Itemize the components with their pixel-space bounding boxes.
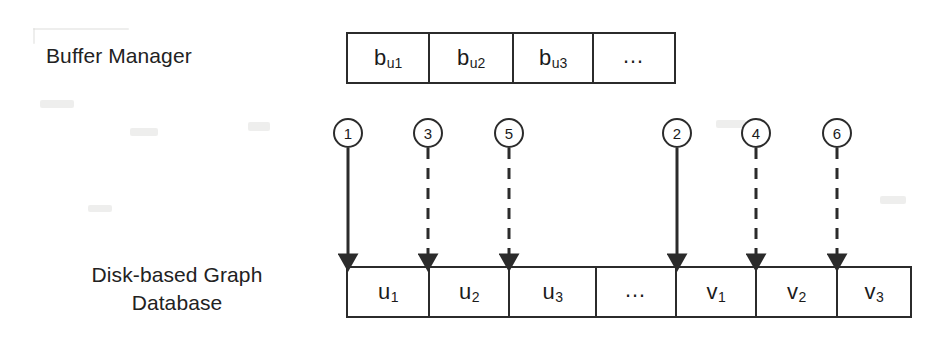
buffer-manager-cells: bu1bu2bu3… [346, 32, 676, 84]
step-circle-5: 5 [494, 118, 524, 148]
disk-cell-5: v1 [677, 268, 757, 316]
buffer-cell-3-base: b [539, 45, 551, 71]
disk-cell-6-subscript: 2 [799, 289, 807, 305]
scan-artifact [88, 205, 112, 212]
disk-cell-3-subscript: 3 [555, 289, 563, 305]
buffer-cell-2-subscript: u2 [470, 55, 486, 71]
disk-cell-5-base: v [707, 279, 718, 305]
scan-artifact [880, 196, 906, 204]
disk-database-label: Disk-based Graph Database [22, 261, 332, 317]
step-circle-2: 2 [662, 118, 692, 148]
disk-cell-4: … [597, 268, 677, 316]
disk-cell-2-base: u [459, 279, 471, 305]
disk-cell-7: v3 [838, 268, 910, 316]
buffer-cell-1: bu1 [348, 34, 430, 82]
disk-cell-2: u2 [430, 268, 510, 316]
disk-cell-7-base: v [865, 279, 876, 305]
buffer-cell-3: bu3 [514, 34, 594, 82]
buffer-cell-2-base: b [457, 45, 469, 71]
disk-cell-2-subscript: 2 [472, 289, 480, 305]
buffer-cell-1-base: b [374, 45, 386, 71]
disk-cell-6: v2 [757, 268, 838, 316]
disk-cell-3-base: u [542, 279, 554, 305]
disk-database-cells: u1u2u3…v1v2v3 [346, 266, 912, 318]
disk-database-label-line1: Disk-based Graph [92, 263, 263, 286]
step-circle-4: 4 [741, 118, 771, 148]
buffer-manager-label: Buffer Manager [22, 42, 322, 70]
scan-artifact [248, 122, 270, 131]
buffer-cell-2: bu2 [430, 34, 514, 82]
scan-artifact [130, 128, 158, 136]
disk-cell-1-base: u [378, 279, 390, 305]
buffer-cell-4: … [594, 34, 674, 82]
disk-database-label-line2: Database [22, 289, 332, 317]
scan-artifact [40, 100, 74, 108]
disk-cell-1: u1 [348, 268, 430, 316]
scan-artifact [33, 28, 129, 30]
disk-cell-6-base: v [787, 279, 798, 305]
step-circle-6: 6 [822, 118, 852, 148]
disk-cell-7-subscript: 3 [876, 289, 884, 305]
buffer-cell-1-subscript: u1 [387, 55, 403, 71]
disk-cell-3: u3 [510, 268, 597, 316]
diagram-canvas: Buffer Manager Disk-based Graph Database… [0, 0, 943, 338]
buffer-cell-3-subscript: u3 [552, 55, 568, 71]
step-circle-1: 1 [333, 118, 363, 148]
disk-cell-5-subscript: 1 [718, 289, 726, 305]
step-circle-3: 3 [413, 118, 443, 148]
disk-cell-1-subscript: 1 [391, 289, 399, 305]
